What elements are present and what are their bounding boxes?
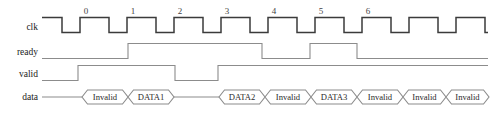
timing-diagram: 0123456 clkreadyvaliddata InvalidDATA1DA…	[0, 0, 500, 117]
bus-value-label: DATA2	[229, 92, 256, 102]
signal-label-column: clkreadyvaliddata	[17, 22, 39, 102]
signal-label-valid: valid	[19, 69, 38, 79]
cycle-number-2: 2	[178, 6, 183, 16]
bus-value-label: Invalid	[455, 92, 480, 102]
cycle-number-1: 1	[131, 6, 136, 16]
signal-label-clk: clk	[26, 22, 38, 32]
cycle-number-5: 5	[319, 6, 324, 16]
bus-value-label: Invalid	[93, 92, 118, 102]
clock-waveform-clk	[42, 18, 488, 33]
bus-value-label: Invalid	[276, 92, 301, 102]
signal-waveform-ready	[42, 44, 488, 59]
bus-value-label: DATA1	[138, 92, 165, 102]
cycle-number-row: 0123456	[84, 6, 371, 16]
waveform-canvas: 0123456 clkreadyvaliddata InvalidDATA1DA…	[0, 0, 500, 117]
bus-value-label: DATA3	[321, 92, 348, 102]
data-bus-row: InvalidDATA1DATA2InvalidDATA3InvalidInva…	[42, 90, 489, 104]
bus-value-label: Invalid	[368, 92, 393, 102]
cycle-number-3: 3	[225, 6, 230, 16]
signal-waveform-valid	[42, 66, 488, 81]
cycle-number-4: 4	[272, 6, 277, 16]
cycle-number-0: 0	[84, 6, 89, 16]
cycle-number-6: 6	[366, 6, 371, 16]
signal-label-ready: ready	[17, 47, 38, 57]
bus-value-label: Invalid	[412, 92, 437, 102]
signal-label-data: data	[22, 92, 39, 102]
waveform-traces	[42, 18, 488, 81]
